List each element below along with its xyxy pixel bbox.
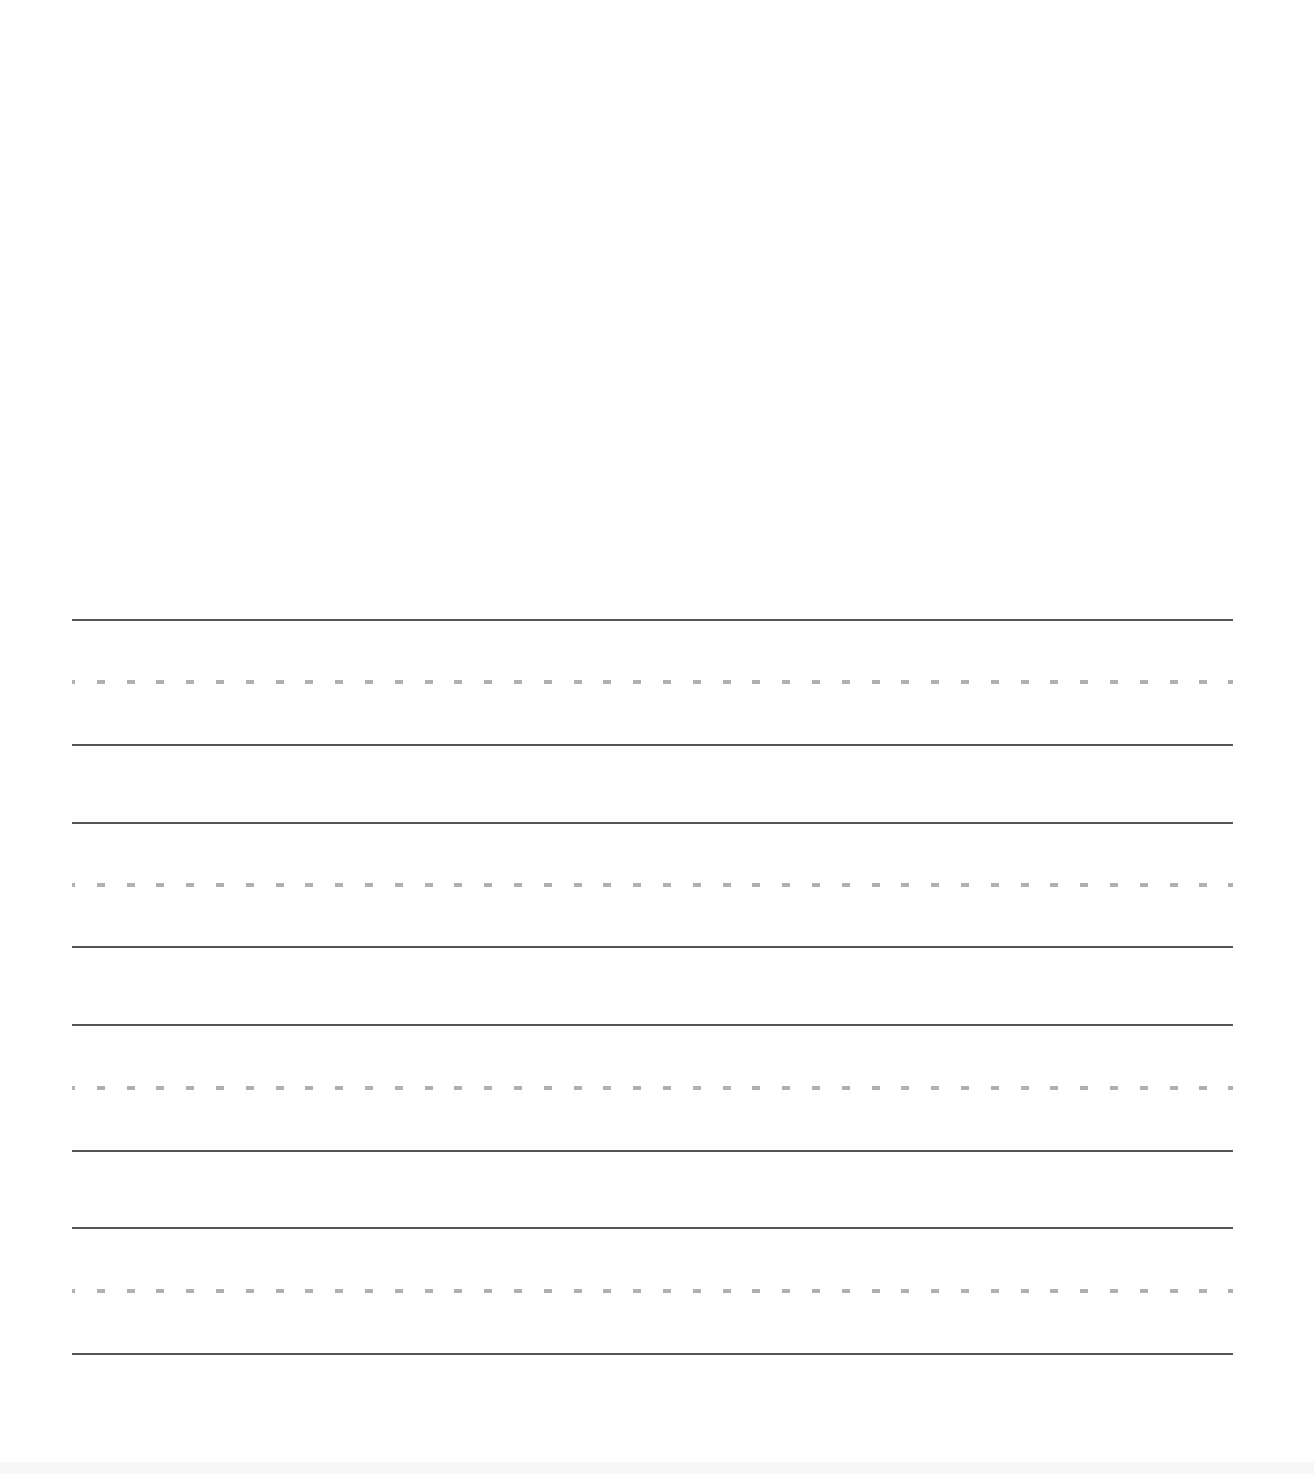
midline-dashed	[72, 680, 1233, 684]
top-line	[72, 822, 1233, 824]
writing-row-1[interactable]	[72, 619, 1233, 747]
blank-drawing-area[interactable]	[72, 0, 1233, 600]
practice-sheet	[0, 0, 1314, 1474]
base-line	[72, 1353, 1233, 1355]
scan-edge	[0, 1462, 1314, 1474]
top-line	[72, 619, 1233, 621]
top-line	[72, 1227, 1233, 1229]
writing-row-2[interactable]	[72, 822, 1233, 950]
writing-row-4[interactable]	[72, 1227, 1233, 1355]
midline-dashed	[72, 1086, 1233, 1090]
base-line	[72, 1150, 1233, 1152]
base-line	[72, 744, 1233, 746]
base-line	[72, 946, 1233, 948]
midline-dashed	[72, 883, 1233, 887]
writing-row-3[interactable]	[72, 1024, 1233, 1152]
top-line	[72, 1024, 1233, 1026]
midline-dashed	[72, 1289, 1233, 1293]
